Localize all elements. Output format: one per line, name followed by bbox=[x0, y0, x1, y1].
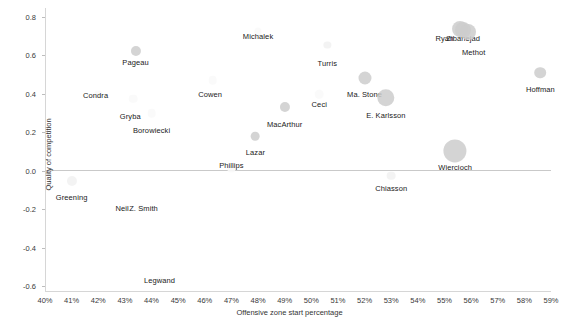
y-tick-label: 0.8 bbox=[0, 13, 36, 22]
data-point-bubble[interactable] bbox=[147, 109, 156, 118]
x-tick-label: 47% bbox=[224, 296, 239, 305]
data-point-label: Wiercioch bbox=[438, 163, 472, 172]
data-point-label: Greening bbox=[56, 193, 88, 202]
y-tick-label: 0.0 bbox=[0, 166, 36, 175]
data-point-bubble[interactable] bbox=[460, 24, 476, 40]
data-point-bubble[interactable] bbox=[444, 139, 467, 162]
data-point-label: Pageau bbox=[122, 58, 148, 67]
x-tick-label: 56% bbox=[464, 296, 479, 305]
data-point-label: Condra bbox=[83, 91, 108, 100]
x-axis-line bbox=[45, 291, 551, 292]
y-tick-label: -0.2 bbox=[0, 205, 36, 214]
x-tick-label: 44% bbox=[144, 296, 159, 305]
data-point-label: Chiasson bbox=[375, 184, 407, 193]
data-point-label: Hoffman bbox=[526, 85, 555, 94]
x-tick-label: 51% bbox=[330, 296, 345, 305]
data-point-bubble[interactable] bbox=[387, 171, 396, 180]
y-tick-mark bbox=[42, 55, 45, 56]
scatter-chart: Quality of competition Offensive zone st… bbox=[0, 0, 579, 322]
x-tick-label: 41% bbox=[64, 296, 79, 305]
y-tick-mark bbox=[42, 94, 45, 95]
data-point-label: Neil bbox=[116, 204, 129, 213]
y-tick-label: 0.2 bbox=[0, 128, 36, 137]
y-tick-mark bbox=[42, 171, 45, 172]
data-point-label: Z. Smith bbox=[129, 204, 158, 213]
data-point-label: Turris bbox=[318, 59, 338, 68]
x-tick-label: 43% bbox=[117, 296, 132, 305]
data-point-bubble[interactable] bbox=[315, 90, 324, 99]
zero-reference-line bbox=[45, 170, 551, 171]
data-point-bubble[interactable] bbox=[129, 94, 138, 103]
y-tick-mark bbox=[42, 132, 45, 133]
data-point-label: Borowiecki bbox=[133, 126, 170, 135]
y-tick-mark bbox=[42, 286, 45, 287]
x-tick-label: 45% bbox=[171, 296, 186, 305]
x-tick-label: 53% bbox=[384, 296, 399, 305]
y-tick-label: 0.4 bbox=[0, 89, 36, 98]
data-point-bubble[interactable] bbox=[130, 46, 140, 56]
data-point-label: Methot bbox=[462, 48, 486, 57]
data-point-label: Cowen bbox=[198, 90, 222, 99]
data-point-bubble[interactable] bbox=[280, 102, 290, 112]
data-point-label: E. Karlsson bbox=[366, 111, 405, 120]
y-tick-mark bbox=[42, 17, 45, 18]
data-point-bubble[interactable] bbox=[324, 41, 331, 48]
data-point-label: Legwand bbox=[144, 276, 175, 285]
x-tick-label: 42% bbox=[91, 296, 106, 305]
data-point-label: Michalek bbox=[243, 32, 273, 41]
x-tick-label: 59% bbox=[543, 296, 558, 305]
x-tick-label: 50% bbox=[304, 296, 319, 305]
x-tick-label: 54% bbox=[410, 296, 425, 305]
y-tick-mark bbox=[42, 209, 45, 210]
data-point-label: MacArthur bbox=[267, 120, 303, 129]
data-point-bubble[interactable] bbox=[358, 71, 371, 84]
data-point-bubble[interactable] bbox=[535, 67, 547, 79]
x-tick-label: 58% bbox=[517, 296, 532, 305]
x-tick-label: 57% bbox=[490, 296, 505, 305]
y-tick-label: 0.6 bbox=[0, 51, 36, 60]
x-tick-label: 48% bbox=[251, 296, 266, 305]
x-axis-title: Offensive zone start percentage bbox=[0, 308, 579, 317]
data-point-bubble[interactable] bbox=[251, 132, 260, 141]
x-tick-label: 40% bbox=[37, 296, 52, 305]
data-point-label: Lazar bbox=[246, 148, 265, 157]
data-point-label: Phillips bbox=[219, 161, 244, 170]
y-tick-mark bbox=[42, 248, 45, 249]
data-point-bubble[interactable] bbox=[377, 89, 394, 106]
x-tick-label: 46% bbox=[197, 296, 212, 305]
x-tick-label: 49% bbox=[277, 296, 292, 305]
data-point-bubble[interactable] bbox=[208, 76, 217, 85]
y-tick-label: -0.4 bbox=[0, 243, 36, 252]
data-point-label: Ceci bbox=[312, 100, 327, 109]
y-tick-label: -0.6 bbox=[0, 282, 36, 291]
x-tick-label: 52% bbox=[357, 296, 372, 305]
y-axis-title: Quality of competition bbox=[44, 75, 53, 235]
data-point-bubble[interactable] bbox=[67, 176, 77, 186]
x-tick-label: 55% bbox=[437, 296, 452, 305]
data-point-label: Gryba bbox=[120, 112, 141, 121]
